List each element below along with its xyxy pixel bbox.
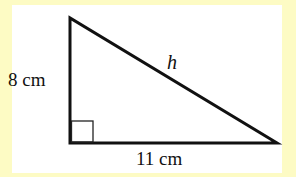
hypotenuse-label: h [167, 51, 177, 73]
right-triangle-diagram: 8 cm 11 cm h [0, 0, 296, 177]
vertical-leg-label: 8 cm [8, 69, 46, 90]
right-angle-marker [72, 121, 94, 142]
triangle-outline [70, 18, 277, 143]
horizontal-leg-label: 11 cm [136, 148, 182, 169]
